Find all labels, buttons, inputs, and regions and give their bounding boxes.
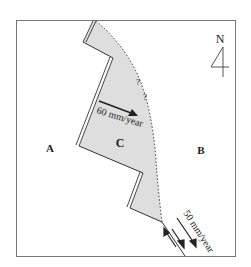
plate-boundary-diagram: ? ? N A B C 60 mm/year 50 mm/year	[0, 0, 251, 267]
question-mark-1: ?	[136, 77, 140, 87]
plate-c-label: C	[116, 136, 125, 150]
north-label: N	[216, 32, 225, 46]
plate-a-label: A	[46, 142, 54, 154]
question-mark-2: ?	[143, 92, 147, 102]
strike-slip-arrows	[164, 228, 184, 248]
north-arrow-icon	[211, 47, 229, 77]
plate-b-label: B	[197, 144, 205, 156]
